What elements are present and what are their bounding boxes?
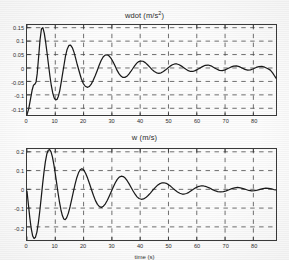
x-axis-label-time: time (s) bbox=[0, 254, 289, 260]
y-tick-label: 0.15 bbox=[13, 25, 24, 31]
x-tick-label: 40 bbox=[137, 118, 143, 124]
x-axis-ticks-wdot: 01020304050607080 bbox=[26, 118, 277, 130]
chart-panel-w: w (m/s) 0.20.10-0.1-0.2 0102030405060708… bbox=[0, 130, 289, 260]
y-tick-label: -0.15 bbox=[11, 107, 24, 113]
figure-canvas: wdot (m/s2) 0.150.10.050-0.05-0.1-0.15 0… bbox=[0, 0, 289, 260]
x-tick-label: 70 bbox=[223, 118, 229, 124]
chart-panel-wdot: wdot (m/s2) 0.150.10.050-0.05-0.1-0.15 0… bbox=[0, 0, 289, 130]
chart-title-wdot-base: wdot (m/s bbox=[125, 11, 158, 20]
plot-svg-wdot bbox=[27, 25, 276, 115]
plot-area-w bbox=[26, 148, 277, 241]
x-tick-label: 20 bbox=[80, 118, 86, 124]
data-series-line bbox=[27, 28, 276, 115]
x-tick-label: 60 bbox=[194, 118, 200, 124]
y-tick-label: 0.05 bbox=[13, 52, 24, 58]
x-tick-label: 40 bbox=[137, 243, 143, 249]
chart-title-wdot: wdot (m/s2) bbox=[0, 11, 289, 20]
y-tick-label: 0.1 bbox=[16, 38, 24, 44]
x-tick-label: 80 bbox=[251, 243, 257, 249]
plot-area-wdot bbox=[26, 24, 277, 116]
x-tick-label: 30 bbox=[108, 118, 114, 124]
plot-svg-w bbox=[27, 149, 276, 240]
x-tick-label: 50 bbox=[165, 118, 171, 124]
x-tick-label: 10 bbox=[51, 243, 57, 249]
chart-title-w: w (m/s) bbox=[0, 133, 289, 142]
x-tick-label: 0 bbox=[24, 118, 27, 124]
y-tick-label: -0.1 bbox=[14, 93, 24, 99]
y-tick-label: 0.1 bbox=[16, 168, 24, 174]
x-tick-label: 70 bbox=[223, 243, 229, 249]
data-series-line bbox=[27, 150, 276, 239]
y-tick-label: 0 bbox=[21, 66, 24, 72]
y-tick-label: 0.2 bbox=[16, 149, 24, 155]
y-axis-ticks-wdot: 0.150.10.050-0.05-0.1-0.15 bbox=[0, 24, 24, 116]
y-tick-label: 0 bbox=[21, 187, 24, 193]
x-tick-label: 80 bbox=[251, 118, 257, 124]
y-tick-label: -0.05 bbox=[11, 80, 24, 86]
y-axis-ticks-w: 0.20.10-0.1-0.2 bbox=[0, 148, 24, 241]
x-tick-label: 10 bbox=[51, 118, 57, 124]
x-tick-label: 0 bbox=[24, 243, 27, 249]
y-tick-label: -0.2 bbox=[14, 226, 24, 232]
x-tick-label: 60 bbox=[194, 243, 200, 249]
chart-title-wdot-tail: ) bbox=[161, 11, 164, 20]
x-tick-label: 30 bbox=[108, 243, 114, 249]
y-tick-label: -0.1 bbox=[14, 206, 24, 212]
x-tick-label: 50 bbox=[165, 243, 171, 249]
x-tick-label: 20 bbox=[80, 243, 86, 249]
